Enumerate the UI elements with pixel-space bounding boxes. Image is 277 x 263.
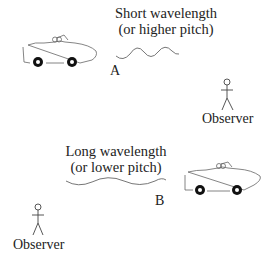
- diagram-drawing: [0, 0, 277, 263]
- top-caption-line1: Short wavelength: [112, 5, 220, 21]
- car-b-wheels: [195, 185, 242, 195]
- long-wave: [66, 178, 166, 185]
- position-label-b: B: [155, 194, 164, 208]
- observer-bottom-label: Observer: [13, 238, 64, 252]
- bottom-caption-line1: Long wavelength: [64, 143, 168, 159]
- position-label-a: A: [110, 64, 120, 78]
- top-caption-line2: (or higher pitch): [112, 21, 220, 37]
- car-a-wheels: [33, 57, 77, 67]
- short-wave: [116, 47, 179, 58]
- observer-bottom-figure: [32, 204, 44, 235]
- bottom-caption-line2: (or lower pitch): [64, 159, 168, 175]
- car-a: [23, 35, 97, 63]
- observer-top-figure: [221, 79, 233, 110]
- observer-top-label: Observer: [202, 112, 253, 126]
